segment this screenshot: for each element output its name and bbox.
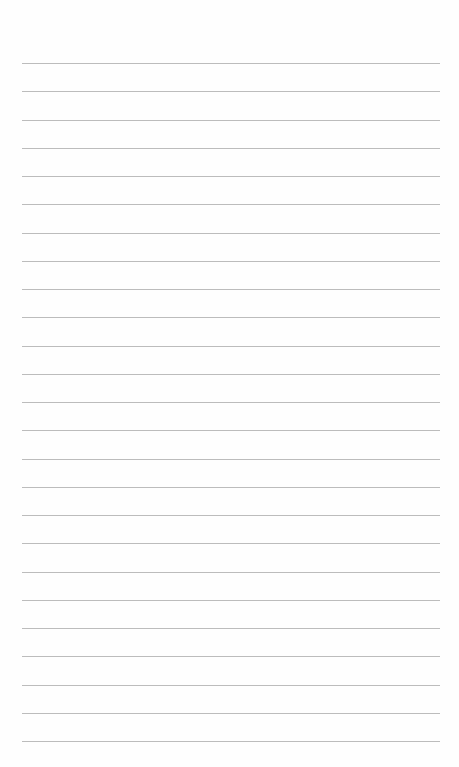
ruled-line: [22, 459, 440, 460]
ruled-line: [22, 656, 440, 657]
ruled-line: [22, 572, 440, 573]
ruled-line: [22, 713, 440, 714]
ruled-line: [22, 204, 440, 205]
ruled-line: [22, 261, 440, 262]
ruled-line: [22, 515, 440, 516]
ruled-line: [22, 346, 440, 347]
ruled-line: [22, 233, 440, 234]
ruled-line: [22, 91, 440, 92]
ruled-line: [22, 628, 440, 629]
ruled-line: [22, 430, 440, 431]
ruled-line: [22, 402, 440, 403]
ruled-line: [22, 487, 440, 488]
ruled-line: [22, 374, 440, 375]
ruled-line: [22, 63, 440, 64]
ruled-line: [22, 317, 440, 318]
ruled-line: [22, 148, 440, 149]
ruled-line: [22, 741, 440, 742]
ruled-line: [22, 120, 440, 121]
lined-paper-sheet: [0, 0, 459, 767]
ruled-line: [22, 289, 440, 290]
ruled-line: [22, 685, 440, 686]
ruled-line: [22, 176, 440, 177]
ruled-line: [22, 600, 440, 601]
ruled-line: [22, 543, 440, 544]
